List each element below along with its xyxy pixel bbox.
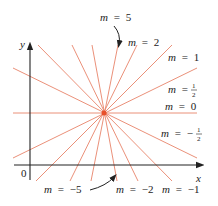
svg-text:1: 1 — [197, 126, 201, 134]
svg-text:2: 2 — [197, 135, 201, 143]
label-m-1: m = 1 — [168, 51, 199, 63]
svg-text:m = −5: m = −5 — [44, 183, 82, 195]
svg-text:1: 1 — [192, 82, 196, 90]
label-m-neg-half: m = − 1 2 — [161, 126, 202, 143]
slope-family-diagram: y x 0 m = 5 m = 2 m = 1 m = 1 2 m = 0 m … — [0, 0, 218, 206]
label-m-0: m = 0 — [165, 100, 197, 112]
label-m-neg-1: m = −1 — [162, 183, 199, 195]
center-point — [102, 111, 107, 116]
label-m-neg-2: m = −2 — [116, 183, 153, 195]
origin-label: 0 — [21, 167, 27, 179]
svg-text:m = −: m = − — [161, 127, 193, 139]
svg-text:2: 2 — [192, 91, 196, 99]
y-axis-label: y — [19, 38, 25, 50]
label-m-half: m = 1 2 — [168, 82, 197, 99]
label-m-2: m = 2 — [128, 36, 159, 48]
arrow-to-m-neg-5 — [90, 177, 114, 190]
svg-text:m = 5: m = 5 — [100, 11, 132, 23]
svg-text:m =: m = — [168, 83, 188, 95]
label-m-neg-5: m = −5 — [44, 177, 114, 195]
label-m-5: m = 5 — [100, 11, 132, 44]
arrow-to-m-5 — [114, 26, 119, 44]
